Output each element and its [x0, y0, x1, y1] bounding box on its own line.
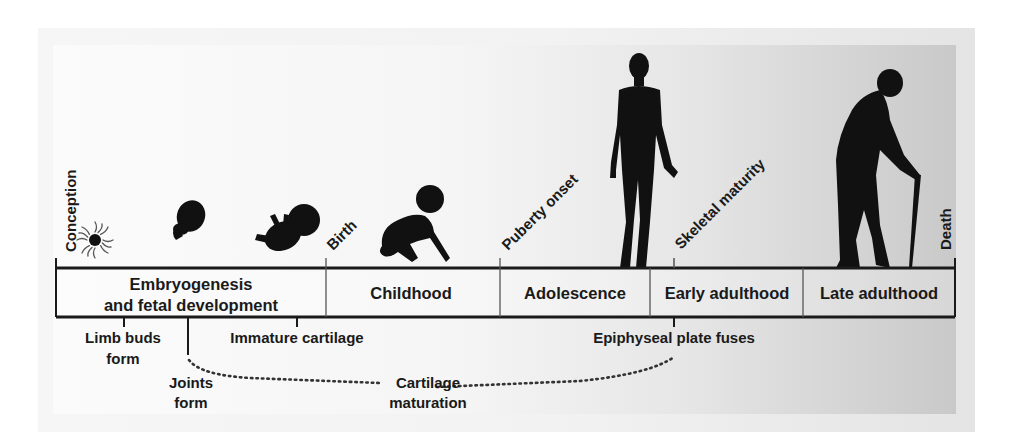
elderly-icon	[836, 69, 921, 268]
stage-embryogenesis-line2: and fetal development	[104, 296, 279, 314]
event-limb-buds-line1: Limb buds	[85, 329, 161, 346]
zygote-icon	[77, 222, 113, 258]
stage-late-adulthood: Late adulthood	[820, 284, 938, 302]
event-joints-line2: form	[174, 394, 207, 411]
process-cartilage-maturation-line2: maturation	[389, 394, 467, 411]
embryo-icon	[172, 196, 209, 240]
stage-childhood: Childhood	[370, 284, 452, 302]
lifespan-diagram: Conception Birth Puberty onset Skeletal …	[0, 0, 1013, 446]
milestone-death: Death	[937, 208, 954, 250]
event-limb-buds-line2: form	[106, 350, 139, 367]
process-cartilage-maturation-line1: Cartilage	[396, 374, 460, 391]
event-immature-cartilage: Immature cartilage	[230, 329, 363, 346]
milestone-skeletal-maturity: Skeletal maturity	[671, 155, 768, 252]
stage-embryogenesis-line1: Embryogenesis	[130, 275, 253, 293]
event-joints-line1: Joints	[169, 374, 213, 391]
adult-icon	[610, 53, 678, 268]
stage-early-adulthood: Early adulthood	[665, 284, 790, 302]
milestone-conception: Conception	[62, 170, 79, 253]
milestone-birth: Birth	[323, 216, 360, 253]
fetus-icon	[255, 204, 320, 257]
event-epiphyseal-plate-fuses: Epiphyseal plate fuses	[593, 329, 755, 346]
milestone-puberty-onset: Puberty onset	[498, 170, 581, 253]
infant-icon	[380, 185, 450, 262]
stage-adolescence: Adolescence	[524, 284, 626, 302]
